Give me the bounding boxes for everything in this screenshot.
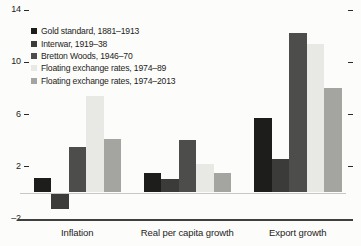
bar-1-export-growth bbox=[254, 118, 272, 192]
y-tick-label: 6 bbox=[1, 110, 21, 119]
legend-label: Floating exchange rates, 1974–2013 bbox=[41, 76, 175, 86]
y-tick-label: 10 bbox=[1, 57, 21, 66]
y-tick-mark-left bbox=[24, 114, 29, 115]
bar-3-export-growth bbox=[289, 33, 307, 192]
category-label-export-growth: Export growth bbox=[238, 227, 358, 238]
bar-5-export-growth bbox=[324, 88, 342, 192]
legend-label: Floating exchange rates, 1974–89 bbox=[41, 63, 166, 73]
legend: Gold standard, 1881–1913Interwar, 1919–3… bbox=[31, 25, 175, 87]
bar-1-inflation bbox=[34, 178, 52, 192]
zero-gridline bbox=[20, 193, 346, 194]
legend-swatch-icon bbox=[31, 78, 37, 84]
legend-swatch-icon bbox=[31, 65, 37, 71]
bar-4-real-per-capita-growth bbox=[196, 164, 214, 193]
legend-label: Bretton Woods, 1946–70 bbox=[41, 51, 133, 61]
bar-2-inflation bbox=[51, 194, 69, 210]
legend-swatch-icon bbox=[31, 53, 37, 59]
bar-1-real-per-capita-growth bbox=[144, 173, 162, 193]
y-tick-mark-right bbox=[348, 114, 353, 115]
bar-3-inflation bbox=[69, 147, 87, 193]
y-tick-mark-right bbox=[348, 62, 353, 63]
y-tick-label: 2 bbox=[1, 162, 21, 171]
legend-label: Gold standard, 1881–1913 bbox=[41, 26, 139, 36]
legend-swatch-icon bbox=[31, 41, 37, 47]
y-tick-mark-right bbox=[348, 166, 353, 167]
legend-item-2: Interwar, 1919–38 bbox=[31, 37, 175, 49]
y-tick-mark-left bbox=[24, 10, 29, 11]
category-label-real-per-capita-growth: Real per capita growth bbox=[127, 227, 247, 238]
bar-5-real-per-capita-growth bbox=[214, 173, 232, 193]
x-axis-line bbox=[18, 219, 353, 221]
bar-4-inflation bbox=[86, 96, 104, 193]
y-tick-mark-left bbox=[24, 166, 29, 167]
category-label-inflation: Inflation bbox=[17, 227, 137, 238]
bar-3-real-per-capita-growth bbox=[179, 140, 197, 192]
y-tick-label: 14 bbox=[1, 5, 21, 14]
bar-4-export-growth bbox=[307, 44, 325, 193]
regime-comparison-bar-chart: Gold standard, 1881–1913Interwar, 1919–3… bbox=[0, 0, 361, 246]
bar-2-export-growth bbox=[272, 159, 290, 193]
legend-label: Interwar, 1919–38 bbox=[41, 39, 107, 49]
bar-2-real-per-capita-growth bbox=[161, 179, 179, 192]
legend-swatch-icon bbox=[31, 28, 37, 34]
legend-item-5: Floating exchange rates, 1974–2013 bbox=[31, 75, 175, 87]
legend-item-1: Gold standard, 1881–1913 bbox=[31, 25, 175, 37]
legend-item-4: Floating exchange rates, 1974–89 bbox=[31, 62, 175, 74]
legend-item-3: Bretton Woods, 1946–70 bbox=[31, 50, 175, 62]
bar-5-inflation bbox=[104, 139, 122, 193]
y-tick-mark-left bbox=[24, 62, 29, 63]
y-tick-mark-right bbox=[348, 10, 353, 11]
